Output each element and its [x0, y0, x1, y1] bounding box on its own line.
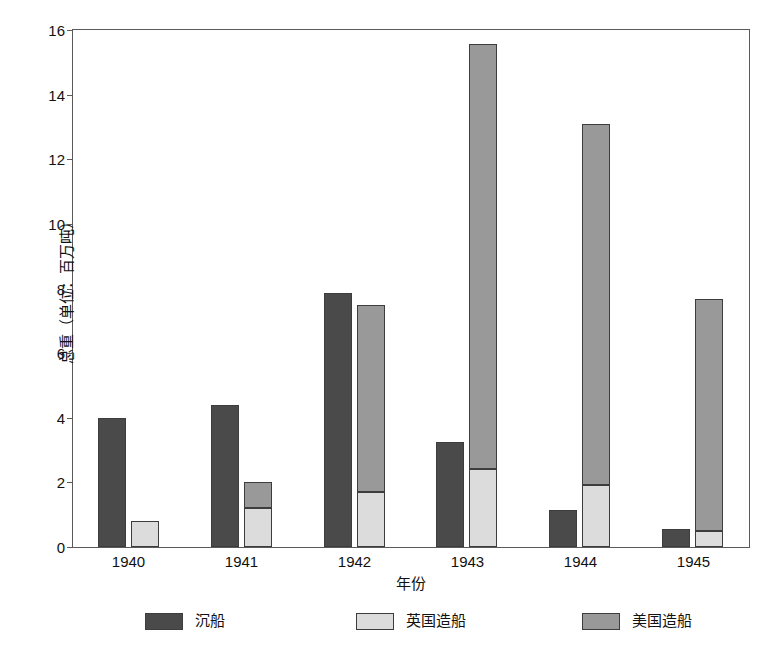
bar-sunk-1944[interactable] — [549, 510, 577, 547]
x-axis-tick-label: 1944 — [524, 551, 637, 577]
x-axis-tick-label: 1940 — [72, 551, 185, 577]
bar-groups — [73, 30, 749, 547]
bar-group — [636, 30, 749, 547]
y-axis-tick-label: 2 — [39, 475, 65, 490]
y-axis-tick-label: 8 — [39, 281, 65, 296]
x-axis-tick-labels: 194019411942194319441945 — [72, 551, 750, 577]
y-axis-tick-label: 10 — [39, 216, 65, 231]
y-axis-tick-mark — [67, 224, 73, 225]
bar-group — [186, 30, 299, 547]
y-axis-tick-mark — [67, 159, 73, 160]
plot-area — [73, 30, 749, 547]
plot-frame: 总重（单位：百万吨） 0246810121416 — [72, 29, 750, 548]
bar-segment-us-1944[interactable] — [582, 124, 610, 486]
bar-segment-uk-1944[interactable] — [582, 485, 610, 547]
y-axis-tick-mark — [67, 547, 73, 548]
chart-legend: 沉船英国造船美国造船 — [72, 606, 750, 636]
bar-stack-1943 — [469, 44, 497, 547]
bar-sunk-1942[interactable] — [324, 293, 352, 547]
bar-sunk-1945[interactable] — [662, 529, 690, 547]
bar-stack-1942 — [357, 305, 385, 547]
y-axis-tick-mark — [67, 353, 73, 354]
x-axis-tick-label: 1945 — [637, 551, 750, 577]
y-axis-tick-label: 6 — [39, 346, 65, 361]
x-axis-tick-label: 1941 — [185, 551, 298, 577]
bar-segment-uk-1943[interactable] — [469, 469, 497, 547]
legend-label: 美国造船 — [632, 613, 692, 630]
bar-stack-1945 — [695, 299, 723, 547]
bar-segment-us-1942[interactable] — [357, 305, 385, 492]
y-axis-tick-mark — [67, 418, 73, 419]
y-axis-tick-label: 4 — [39, 410, 65, 425]
legend-item-1[interactable]: 英国造船 — [298, 606, 524, 636]
y-axis-tick-label: 12 — [39, 152, 65, 167]
bar-segment-uk-1941[interactable] — [244, 508, 272, 547]
bar-group — [411, 30, 524, 547]
y-axis-tick-mark — [67, 482, 73, 483]
bar-group — [524, 30, 637, 547]
bar-segment-uk-1942[interactable] — [357, 492, 385, 547]
bar-stack-1940 — [131, 521, 159, 547]
bar-segment-us-1941[interactable] — [244, 482, 272, 508]
bar-group — [73, 30, 186, 547]
legend-swatch-icon — [582, 613, 620, 630]
legend-swatch-icon — [145, 613, 183, 630]
bar-segment-uk-1940[interactable] — [131, 521, 159, 547]
y-axis-tick-mark — [67, 289, 73, 290]
x-axis-tick-label: 1942 — [298, 551, 411, 577]
legend-swatch-icon — [356, 613, 394, 630]
bar-stack-1941 — [244, 482, 272, 547]
x-axis-title: 年份 — [72, 575, 750, 593]
bar-group — [298, 30, 411, 547]
legend-label: 沉船 — [195, 613, 225, 630]
x-axis-tick-label: 1943 — [411, 551, 524, 577]
bar-sunk-1940[interactable] — [98, 418, 126, 547]
legend-label: 英国造船 — [406, 613, 466, 630]
y-axis-tick-label: 16 — [39, 23, 65, 38]
y-axis-tick-mark — [67, 95, 73, 96]
legend-item-0[interactable]: 沉船 — [72, 606, 298, 636]
bar-sunk-1943[interactable] — [436, 442, 464, 547]
bar-segment-uk-1945[interactable] — [695, 531, 723, 547]
bar-segment-us-1943[interactable] — [469, 44, 497, 469]
y-axis-tick-label: 14 — [39, 87, 65, 102]
bar-segment-us-1945[interactable] — [695, 299, 723, 531]
legend-item-2[interactable]: 美国造船 — [524, 606, 750, 636]
bar-stack-1944 — [582, 124, 610, 547]
y-axis-tick-label: 0 — [39, 540, 65, 555]
y-axis-tick-mark — [67, 30, 73, 31]
bar-sunk-1941[interactable] — [211, 405, 239, 547]
chart-figure: 总重（单位：百万吨） 0246810121416 194019411942194… — [0, 0, 767, 649]
